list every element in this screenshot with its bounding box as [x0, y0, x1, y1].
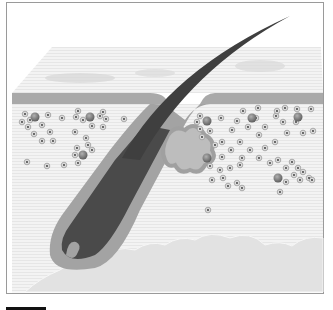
skin-diagram	[0, 0, 333, 310]
